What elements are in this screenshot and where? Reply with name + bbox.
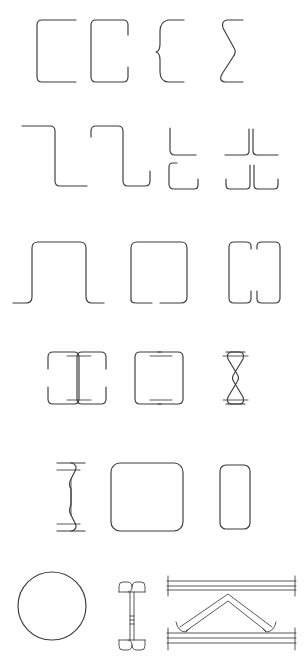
profile-curved-lip-channel[interactable]: Channel with curved return flanges (156, 20, 184, 82)
profile-plain-angle[interactable]: Plain angle (L section) (170, 128, 196, 155)
profile-lattice-truss-girder[interactable]: Lattice truss girder with chords and dia… (167, 576, 296, 650)
profile-lipped-zed[interactable]: Lipped Z section (91, 126, 150, 186)
profile-back-to-back-lipped-angle[interactable]: Back-to-back lipped angles (T) (226, 165, 278, 189)
profile-closed-hat-section[interactable]: Closed hat section (131, 242, 187, 303)
profile-back-to-back-sigma[interactable]: Back-to-back sigma sections (223, 352, 248, 404)
profile-plain-channel[interactable]: Plain channel (C section) (37, 20, 76, 82)
profile-back-to-back-plain-angle[interactable]: Back-to-back plain angles (T) (225, 129, 278, 155)
profile-catalog: Plain channel (C section) Lipped channel… (0, 0, 305, 670)
profile-circular-hollow-section[interactable]: Circular hollow section (CHS) (18, 572, 86, 640)
profile-sigma-channel[interactable]: Sigma / zig-zag web section (221, 20, 243, 82)
profile-hat-section[interactable]: Hat / top-hat section (13, 242, 104, 303)
profile-back-to-back-plain-channel-i[interactable]: Back-to-back plain channels (I section) (135, 352, 183, 404)
row-hat-and-box-sections: Hat / top-hat section Closed hat section… (13, 242, 280, 303)
profile-built-up-lattice-stud[interactable]: Built-up I stud with lipped flanges (119, 582, 145, 650)
profile-curved-flange-i[interactable]: Curved-flange built-up I section (57, 463, 85, 531)
row-zed-and-angle-sections: Plain Z section Lipped Z section Plain a… (22, 126, 278, 189)
row-built-up-i-sections: Back-to-back lipped channels (I section)… (48, 352, 248, 404)
profile-back-to-back-lipped-channel-i[interactable]: Back-to-back lipped channels (I section) (48, 352, 106, 404)
row-tubes-and-assemblies: Circular hollow section (CHS) Built-up I… (18, 572, 296, 650)
profile-lipped-angle[interactable]: Lipped angle (L section with lips) (169, 163, 198, 189)
row-channel-sections: Plain channel (C section) Lipped channel… (37, 20, 243, 82)
profile-rectangular-hollow-section[interactable]: Rectangular hollow section (RHS) (220, 465, 250, 529)
profile-square-hollow-section[interactable]: Square hollow section (SHS) (111, 463, 183, 531)
profile-plain-zed[interactable]: Plain Z section (22, 126, 87, 186)
profile-drawing-canvas: Plain channel (C section) Lipped channel… (0, 0, 305, 670)
profile-double-box-section[interactable]: Twin closed box section (229, 242, 280, 303)
row-tubes-and-curved-sections: Curved-flange built-up I section Square … (57, 463, 250, 531)
profile-lipped-channel[interactable]: Lipped channel (C section with lips) (91, 20, 128, 82)
